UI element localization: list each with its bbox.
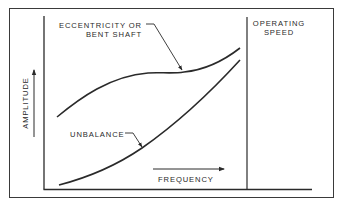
eccentricity-label-line2: BENT SHAFT <box>86 30 142 39</box>
operating-speed-label-line1: OPERATING <box>253 19 305 28</box>
operating-speed-label-line2: SPEED <box>264 28 294 37</box>
unbalance-label: UNBALANCE <box>70 130 125 139</box>
eccentricity-curve <box>57 48 240 117</box>
eccentricity-leader-icon <box>146 24 182 70</box>
amplitude-frequency-diagram: ECCENTRICITY OR BENT SHAFT OPERATING SPE… <box>0 0 342 212</box>
unbalance-leader-icon <box>125 133 142 147</box>
frequency-axis-label: FREQUENCY <box>158 175 214 184</box>
unbalance-curve <box>59 60 240 185</box>
amplitude-axis-label: AMPLITUDE <box>21 77 30 129</box>
eccentricity-label-line1: ECCENTRICITY OR <box>59 21 142 30</box>
